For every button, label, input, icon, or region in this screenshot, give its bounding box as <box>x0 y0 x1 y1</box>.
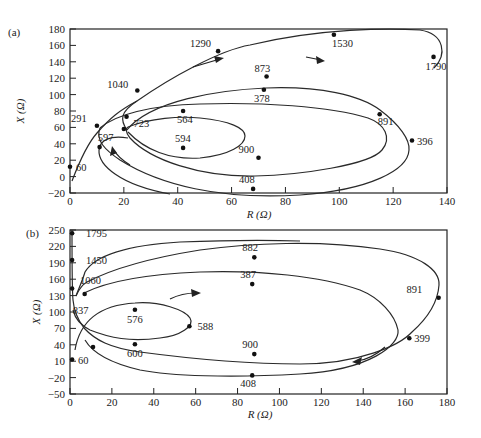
point-label: 1290 <box>190 38 211 49</box>
data-point <box>256 155 261 160</box>
curves-a <box>72 29 442 196</box>
data-point <box>431 55 436 60</box>
data-point <box>407 336 412 341</box>
y-tick-label: 70 <box>54 322 66 334</box>
point-label: 1040 <box>107 79 128 90</box>
x-tick-label: 0 <box>67 195 73 207</box>
data-point <box>250 373 255 378</box>
plot-a-frame <box>70 29 447 193</box>
y-tick-label: 180 <box>49 23 66 35</box>
y-tick-label: 160 <box>49 273 66 285</box>
panel-b: (b) R (Ω) X (Ω) 020406080100120140160180… <box>26 224 456 421</box>
point-label: 588 <box>197 321 213 332</box>
data-point <box>135 88 140 93</box>
y-tick-label: 100 <box>49 89 66 101</box>
data-point <box>216 49 221 54</box>
data-point <box>95 123 100 128</box>
point-label: 1060 <box>80 275 101 286</box>
x-tick-label: 60 <box>226 195 238 207</box>
x-tick-label: 60 <box>190 396 202 408</box>
data-point <box>264 74 269 79</box>
impedance-chart: (a) R (Ω) X (Ω) 020406080100120140−20020… <box>0 0 481 438</box>
data-point <box>82 292 87 297</box>
point-label: 594 <box>175 133 192 144</box>
point-label: 291 <box>71 113 87 124</box>
x-tick-label: 120 <box>385 195 402 207</box>
data-point <box>181 109 186 114</box>
x-tick-label: 160 <box>397 396 414 408</box>
point-label: 600 <box>127 348 143 359</box>
point-label: 900 <box>242 339 258 350</box>
y-tick-label: 40 <box>54 339 66 351</box>
data-point <box>251 187 256 192</box>
y-tick-label: −20 <box>48 372 66 384</box>
x-axis-label-b: R (Ω) <box>247 408 273 421</box>
panel-a: (a) R (Ω) X (Ω) 020406080100120140−20020… <box>8 23 456 221</box>
point-label: 408 <box>240 378 256 389</box>
data-point <box>97 145 102 150</box>
y-tick-label: 80 <box>54 105 66 117</box>
y-tick-label: 0 <box>60 171 66 183</box>
data-point <box>70 286 75 291</box>
data-point <box>252 352 257 357</box>
data-point <box>252 255 257 260</box>
y-axis-label-b: X (Ω) <box>30 299 43 325</box>
y-tick-label: 190 <box>49 257 66 269</box>
data-point <box>250 282 255 287</box>
x-tick-label: 20 <box>118 195 130 207</box>
data-point <box>181 146 186 151</box>
point-label: 576 <box>127 314 143 325</box>
y-tick-label: 120 <box>49 72 66 84</box>
point-label: 873 <box>255 63 271 74</box>
y-tick-label: 250 <box>49 224 66 236</box>
point-label: 408 <box>239 174 255 185</box>
y-tick-label: 140 <box>49 56 66 68</box>
y-tick-label: −50 <box>48 388 66 400</box>
point-label: 60 <box>76 162 87 173</box>
x-tick-label: 100 <box>331 195 348 207</box>
data-points-b: 1795145010608376057658860088238789139990… <box>70 228 441 389</box>
x-tick-label: 140 <box>439 195 456 207</box>
y-tick-label: 160 <box>49 39 66 51</box>
panel-a-tag: (a) <box>8 26 21 39</box>
point-label: 891 <box>378 116 394 127</box>
point-label: 396 <box>417 136 433 147</box>
x-tick-label: 80 <box>232 396 244 408</box>
point-label: 723 <box>134 118 150 129</box>
point-label: 900 <box>239 144 255 155</box>
point-label: 882 <box>242 242 258 253</box>
x-tick-label: 140 <box>355 396 372 408</box>
x-tick-label: 80 <box>280 195 292 207</box>
data-point <box>91 345 96 350</box>
x-tick-label: 40 <box>148 396 160 408</box>
point-label: 399 <box>414 333 430 344</box>
point-label: 1530 <box>332 38 353 49</box>
data-point <box>124 114 129 119</box>
point-label: 891 <box>407 284 423 295</box>
data-point <box>68 164 73 169</box>
data-point <box>122 127 127 132</box>
y-tick-label: 60 <box>54 121 66 133</box>
point-label: 837 <box>73 305 89 316</box>
y-axis-label-a: X (Ω) <box>14 98 27 124</box>
data-point <box>262 87 267 92</box>
y-tick-label: 220 <box>49 240 66 252</box>
point-label: 1450 <box>86 255 107 266</box>
data-point <box>187 324 192 329</box>
point-label: 564 <box>177 114 194 125</box>
x-tick-label: 0 <box>67 396 73 408</box>
y-tick-label: −20 <box>48 187 66 199</box>
data-point <box>332 32 337 37</box>
panel-b-tag: (b) <box>26 227 39 240</box>
point-label: 60 <box>78 355 89 366</box>
point-label: 1790 <box>426 61 447 72</box>
x-tick-label: 180 <box>439 396 456 408</box>
data-point <box>133 308 138 313</box>
data-point <box>70 231 75 236</box>
y-tick-label: 100 <box>49 306 66 318</box>
x-tick-label: 100 <box>271 396 288 408</box>
data-point <box>133 342 138 347</box>
point-label: 1795 <box>86 228 107 239</box>
data-point <box>410 138 415 143</box>
point-label: 387 <box>240 269 256 280</box>
